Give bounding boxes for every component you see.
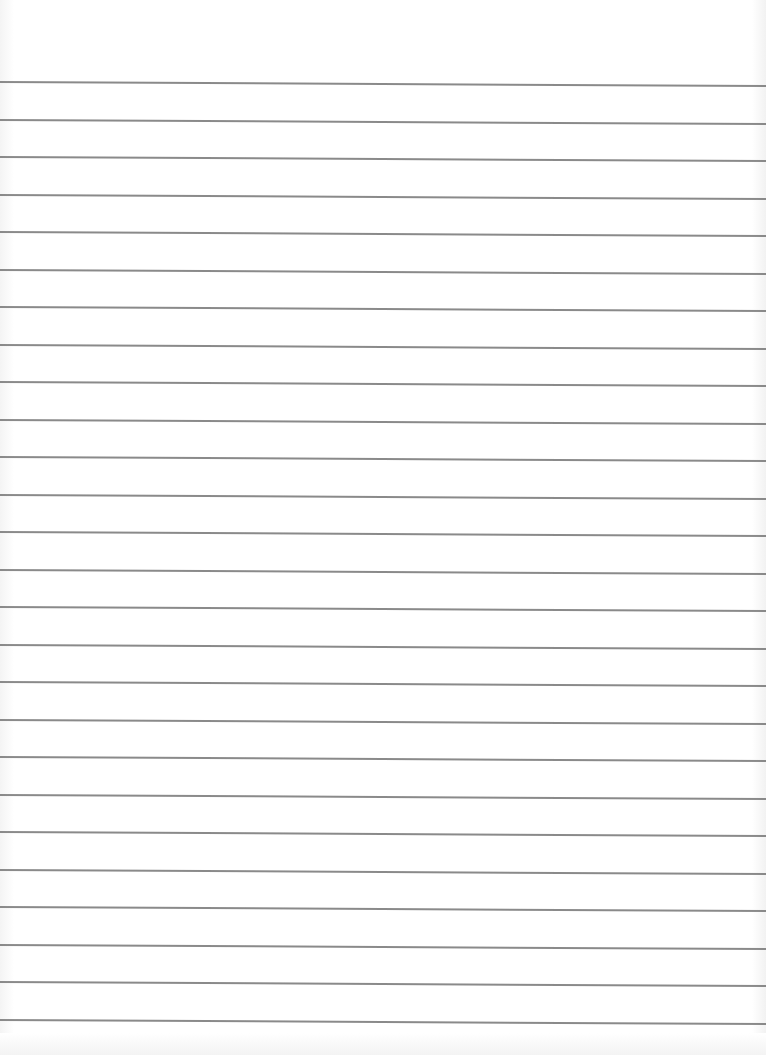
ruled-line — [0, 456, 766, 462]
ruled-line — [0, 494, 766, 500]
ruled-line — [0, 231, 766, 237]
ruled-line — [0, 156, 766, 162]
ruled-line — [0, 606, 766, 612]
ruled-line — [0, 1019, 766, 1025]
ruled-line — [0, 306, 766, 312]
lined-paper-sheet — [0, 0, 766, 1055]
ruled-line — [0, 681, 766, 687]
ruled-line — [0, 531, 766, 537]
ruled-line — [0, 569, 766, 575]
ruled-line — [0, 906, 766, 912]
ruled-line — [0, 419, 766, 425]
ruled-line — [0, 869, 766, 875]
ruled-line — [0, 344, 766, 350]
ruled-line — [0, 719, 766, 725]
ruled-line — [0, 981, 766, 987]
ruled-line — [0, 831, 766, 837]
ruled-line — [0, 644, 766, 650]
ruled-line — [0, 269, 766, 275]
ruled-line — [0, 794, 766, 800]
ruled-line — [0, 381, 766, 387]
paper-bottom-edge — [0, 1033, 766, 1055]
ruled-line — [0, 119, 766, 125]
ruled-line — [0, 944, 766, 950]
ruled-line — [0, 194, 766, 200]
ruled-line — [0, 756, 766, 762]
ruled-line — [0, 81, 766, 87]
